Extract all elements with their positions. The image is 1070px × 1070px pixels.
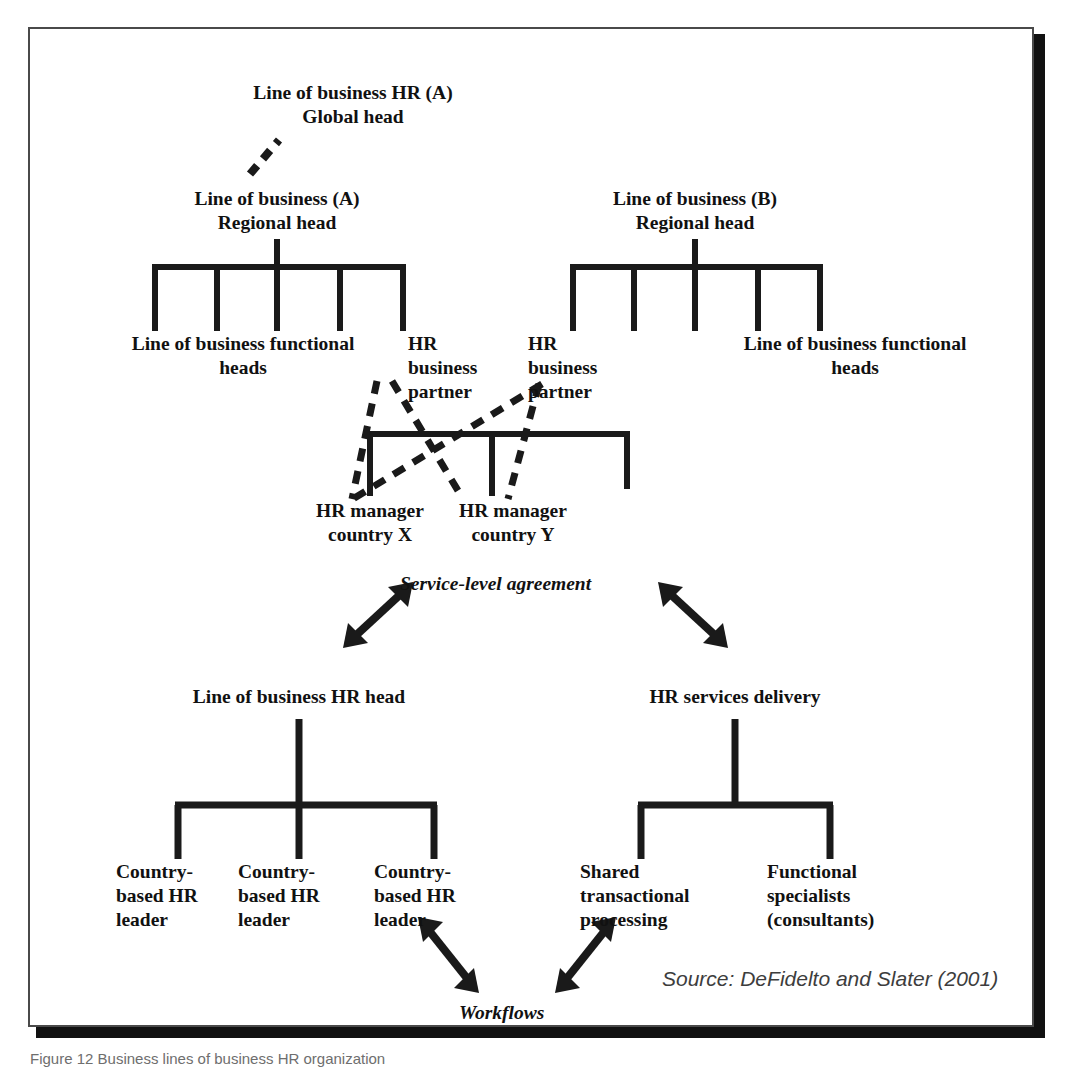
node-country-hr-leader-3: Country- based HR leader: [374, 860, 499, 932]
node-country-hr-leader-1: Country- based HR leader: [116, 860, 241, 932]
node-workflows: Workflows: [459, 1001, 544, 1024]
node-global-head: Line of business HR (A) Global head: [203, 81, 503, 129]
node-shared-transactional-processing: Shared transactional processing: [580, 860, 740, 932]
node-hr-manager-country-y: HR manager country Y: [428, 499, 598, 547]
node-functional-heads-left: Line of business functional heads: [78, 332, 408, 380]
node-hr-business-partner-left: HR business partner: [408, 332, 518, 404]
node-regional-head-a: Line of business (A) Regional head: [127, 187, 427, 235]
node-country-hr-leader-2: Country- based HR leader: [238, 860, 363, 932]
node-hr-business-partner-right: HR business partner: [528, 332, 638, 404]
figure-frame: Line of business HR (A) Global head Line…: [28, 27, 1034, 1027]
node-functional-heads-right: Line of business functional heads: [690, 332, 1020, 380]
node-hr-services-delivery: HR services delivery: [635, 685, 835, 709]
bottom-caption-clipped: Figure 12 Business lines of business HR …: [30, 1050, 630, 1070]
node-lob-hr-head: Line of business HR head: [174, 685, 424, 709]
labels-layer: Line of business HR (A) Global head Line…: [30, 29, 1036, 1029]
node-functional-specialists: Functional specialists (consultants): [767, 860, 942, 932]
source-note: Source: DeFidelto and Slater (2001): [662, 967, 998, 991]
node-service-level-agreement: Service-level agreement: [400, 572, 591, 595]
top-caption-clipped: [30, 0, 1030, 5]
node-regional-head-b: Line of business (B) Regional head: [545, 187, 845, 235]
